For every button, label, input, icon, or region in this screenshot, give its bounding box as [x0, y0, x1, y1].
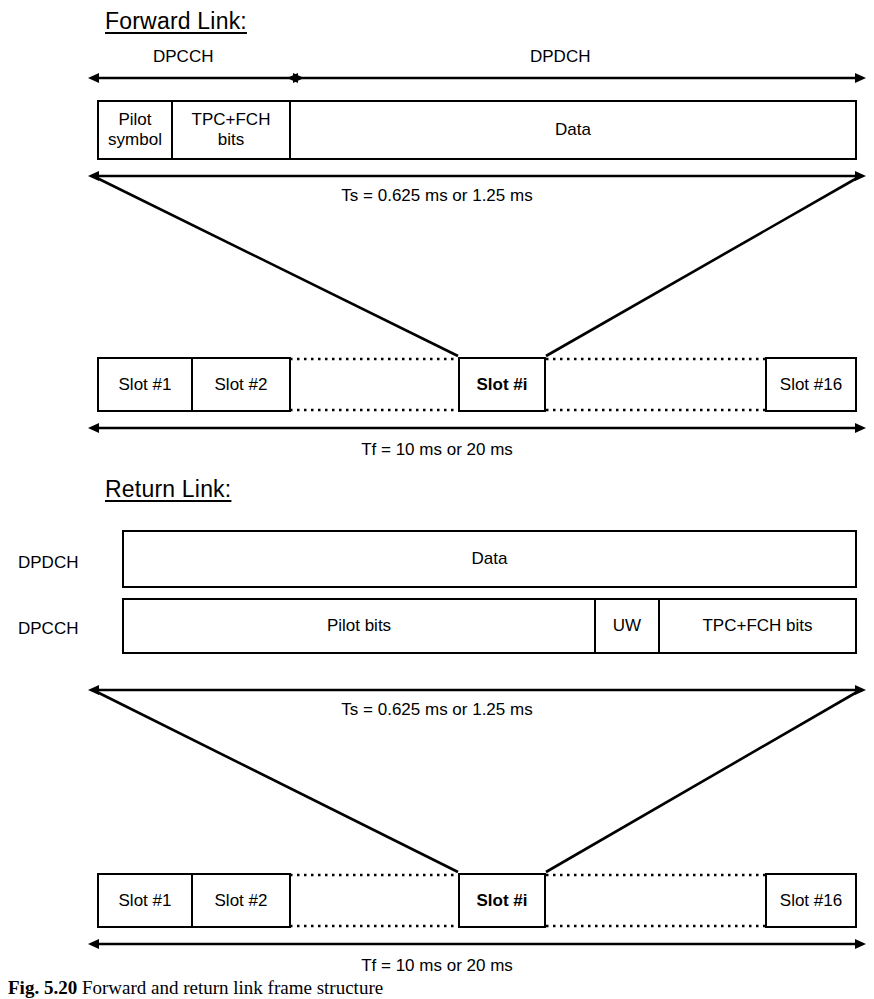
return-row-label-dpdch: DPDCH — [18, 553, 78, 573]
return-field-pilot-bits-label: Pilot bits — [327, 616, 391, 636]
return-field-uw: UW — [594, 598, 660, 654]
return-row-label-dpcch: DPCCH — [18, 619, 78, 639]
return-slot-2-label: Slot #2 — [215, 891, 268, 911]
return-field-pilot-bits: Pilot bits — [122, 598, 596, 654]
return-slot-i-label: Slot #i — [476, 891, 527, 911]
figure-caption-prefix: Fig. 5.20 — [8, 977, 77, 998]
return-slot-1-label: Slot #1 — [119, 891, 172, 911]
figure-caption-text: Forward and return link frame structure — [82, 977, 383, 998]
forward-slot-1: Slot #1 — [97, 357, 193, 412]
return-tf-label: Tf = 10 ms or 20 ms — [356, 956, 518, 976]
forward-tf-label: Tf = 10 ms or 20 ms — [356, 440, 518, 460]
return-field-data: Data — [122, 530, 857, 588]
forward-slot-16-label: Slot #16 — [780, 375, 842, 395]
forward-dpdch-label: DPDCH — [530, 48, 590, 65]
return-field-uw-label: UW — [613, 616, 641, 636]
return-slot-i: Slot #i — [458, 873, 546, 928]
forward-field-tpc-fch-bits-line2: bits — [218, 130, 244, 149]
return-field-data-label: Data — [472, 549, 508, 569]
return-field-tpc-fch-bits-label: TPC+FCH bits — [702, 616, 812, 636]
forward-field-pilot-symbol: Pilot symbol — [97, 100, 173, 160]
forward-field-data-label: Data — [555, 120, 591, 140]
return-slot-2: Slot #2 — [191, 873, 291, 928]
forward-field-tpc-fch-bits: TPC+FCH bits — [171, 100, 291, 160]
forward-slot-i: Slot #i — [458, 357, 546, 412]
forward-field-tpc-fch-bits-line1: TPC+FCH — [192, 110, 271, 129]
return-ts-label: Ts = 0.625 ms or 1.25 ms — [336, 700, 537, 720]
forward-field-pilot-symbol-line2: symbol — [108, 130, 162, 149]
return-slot-16: Slot #16 — [765, 873, 857, 928]
forward-field-data: Data — [289, 100, 857, 160]
return-slot-1: Slot #1 — [97, 873, 193, 928]
forward-slot-2: Slot #2 — [191, 357, 291, 412]
forward-slot-i-label: Slot #i — [476, 375, 527, 395]
return-slot-16-label: Slot #16 — [780, 891, 842, 911]
figure-caption: Fig. 5.20 Forward and return link frame … — [8, 977, 383, 999]
forward-slot-2-label: Slot #2 — [215, 375, 268, 395]
forward-ts-label: Ts = 0.625 ms or 1.25 ms — [336, 186, 537, 206]
forward-dpcch-label: DPCCH — [153, 48, 213, 65]
forward-field-pilot-symbol-line1: Pilot — [118, 110, 151, 129]
forward-link-heading: Forward Link: — [105, 8, 247, 35]
return-field-tpc-fch-bits: TPC+FCH bits — [658, 598, 857, 654]
return-link-heading: Return Link: — [105, 476, 231, 503]
forward-slot-1-label: Slot #1 — [119, 375, 172, 395]
forward-slot-16: Slot #16 — [765, 357, 857, 412]
